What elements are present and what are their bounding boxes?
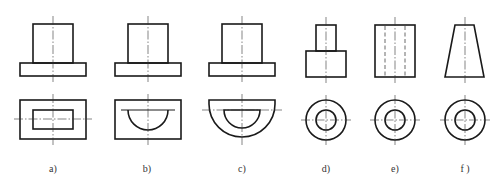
panel-f-label: f )	[460, 163, 469, 174]
panel-b-label: b)	[143, 163, 151, 174]
front-view-a	[20, 16, 86, 82]
top-view-b	[115, 94, 181, 145]
top-view-a	[14, 94, 92, 145]
projection-drawing	[0, 0, 503, 188]
front-view-f	[445, 17, 484, 83]
front-view-d	[306, 17, 346, 83]
front-view-c	[209, 16, 275, 82]
panel-a	[14, 16, 92, 145]
panel-b	[115, 16, 181, 145]
panel-c-label: c)	[238, 163, 246, 174]
top-view-d	[301, 95, 351, 145]
panel-e	[370, 17, 420, 145]
top-view-c	[202, 94, 282, 145]
panel-d-label: d)	[322, 163, 330, 174]
panel-c	[202, 16, 282, 145]
panel-d	[301, 17, 351, 145]
panel-f	[440, 17, 490, 145]
front-view-e	[375, 17, 415, 83]
panel-e-label: e)	[391, 163, 399, 174]
top-view-f	[440, 95, 490, 145]
top-view-e	[370, 95, 420, 145]
panel-a-label: a)	[49, 163, 57, 174]
front-view-b	[115, 16, 181, 82]
